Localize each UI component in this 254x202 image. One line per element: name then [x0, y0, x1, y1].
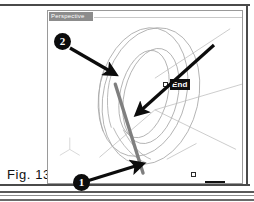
page-border-top: [0, 4, 250, 6]
snap-tooltip-end-upper: End: [170, 79, 190, 90]
snap-marker-upper-endpoint[interactable]: [163, 82, 168, 87]
viewport-geometry: [48, 11, 242, 183]
wireframe-torus: [86, 18, 213, 174]
callout-badge-1: 1: [73, 174, 90, 191]
figure-caption: Fig. 13: [7, 167, 51, 182]
construction-axes: [99, 29, 242, 159]
page-border-bottom: [0, 184, 250, 186]
cad-viewport[interactable]: Perspective: [47, 10, 243, 184]
snap-tooltip-end-lower: End: [205, 181, 225, 184]
page-rule-divider-bottom: [0, 199, 254, 201]
page-rule-divider-thick: [0, 191, 254, 193]
callout-badge-2: 2: [54, 33, 71, 50]
snap-marker-lower-endpoint[interactable]: [191, 172, 196, 177]
figure-page: Fig. 13 Perspective: [0, 0, 254, 202]
axis-tripod-icon: [60, 138, 80, 156]
drawn-line: [115, 84, 143, 173]
page-border-right: [246, 4, 248, 186]
page-rule-divider-thin: [0, 195, 254, 196]
